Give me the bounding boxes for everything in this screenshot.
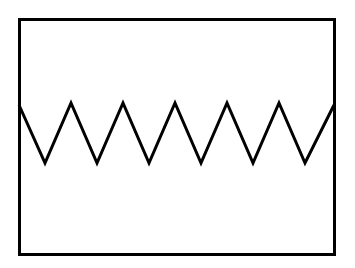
rectangular-border: [20, 20, 335, 255]
triangle-wave-path: [19, 103, 334, 163]
figure-container: [0, 0, 355, 268]
triangle-wave-figure: [0, 0, 355, 268]
